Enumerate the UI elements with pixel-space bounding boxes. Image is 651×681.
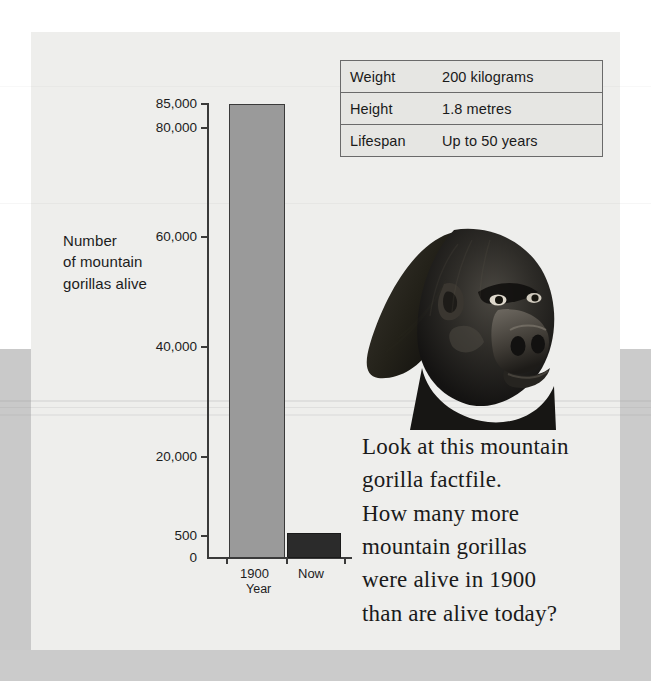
question-line: How many more [362,497,614,530]
y-tick-label-40000: 40,000 [156,340,197,354]
question-line: were alive in 1900 [362,563,614,596]
y-tick-mark [201,127,208,129]
factfile-value-weight: 200 kilograms [442,69,534,85]
question-line: Look at this mountain [362,430,614,463]
y-axis-line [207,103,209,558]
y-tick-mark [201,236,208,238]
factfile-row: Height 1.8 metres [341,93,602,125]
scan-edge-shadow-left [0,349,31,681]
factfile-label-weight: Weight [341,69,442,85]
factfile-row: Lifespan Up to 50 years [341,125,602,156]
x-category-label-1900: 1900 [240,567,269,580]
x-tick-mark [286,557,288,564]
y-axis-title-line: gorillas alive [63,273,188,294]
gorilla-population-bar-chart: Number of mountain gorillas alive 85,000… [60,90,360,600]
y-tick-label-0: 0 [189,551,197,565]
scanned-worksheet-page: Weight 200 kilograms Height 1.8 metres L… [0,0,651,681]
scan-edge-shadow-right [620,349,651,681]
question-line: gorilla factfile. [362,463,614,496]
y-tick-label-60000: 60,000 [156,230,197,244]
y-tick-mark [201,535,208,537]
bar-1900 [229,104,285,558]
y-tick-mark [201,456,208,458]
y-tick-label-80000: 80,000 [156,121,197,135]
question-text: Look at this mountain gorilla factfile. … [362,430,614,630]
y-axis-title-line: of mountain [63,251,188,272]
y-tick-mark [201,346,208,348]
y-tick-label-20000: 20,000 [156,450,197,464]
gorilla-factfile-table: Weight 200 kilograms Height 1.8 metres L… [340,60,603,157]
bar-now [287,533,341,558]
scan-edge-shadow-bottom [0,650,651,681]
question-line: than are alive today? [362,597,614,630]
gorilla-head-illustration [358,218,570,430]
factfile-value-lifespan: Up to 50 years [442,133,538,149]
factfile-value-height: 1.8 metres [442,101,512,117]
x-tick-mark [226,557,228,564]
factfile-row: Weight 200 kilograms [341,61,602,93]
x-axis-title: Year [246,582,271,596]
question-line: mountain gorillas [362,530,614,563]
x-tick-mark [344,557,346,564]
y-tick-label-85000: 85,000 [156,97,197,111]
y-tick-mark [201,103,208,105]
x-category-label-now: Now [298,567,324,580]
y-tick-label-500: 500 [174,529,197,543]
